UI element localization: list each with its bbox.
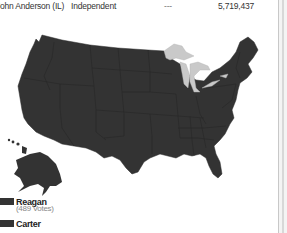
legend-swatch-reagan <box>0 198 14 205</box>
electoral-votes: --- <box>164 1 172 11</box>
table-row: John Anderson (IL) Independent --- 5,719… <box>0 0 279 14</box>
legend-label: Carter <box>16 219 41 229</box>
legend-swatch-carter <box>0 220 14 227</box>
page-content: John Anderson (IL) Independent --- 5,719… <box>0 0 279 233</box>
hawaii-shape <box>8 139 27 154</box>
legend-item-carter: Carter <box>0 214 41 232</box>
candidate-party: Independent <box>71 1 116 11</box>
scrollbar-track[interactable] <box>282 0 284 233</box>
legend-sublabel: (489 Votes) <box>16 204 54 213</box>
candidate-name: John Anderson (IL) <box>0 1 64 11</box>
popular-votes: 5,719,437 <box>218 1 254 11</box>
vertical-scrollbar[interactable] <box>278 0 287 233</box>
continental-us-shape <box>18 35 258 178</box>
alaska-shape <box>14 152 62 196</box>
us-election-map <box>0 28 270 198</box>
